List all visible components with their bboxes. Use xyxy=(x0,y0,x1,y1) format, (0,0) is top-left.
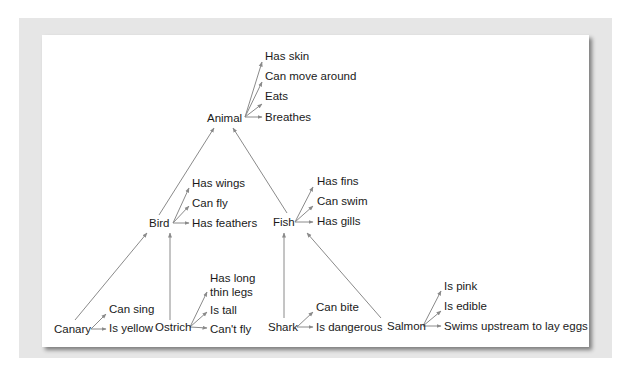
property-label: Can fly xyxy=(192,197,228,210)
property-arrow xyxy=(295,206,313,222)
property-label: Can bite xyxy=(316,301,359,314)
property-label: Has long xyxy=(210,272,255,285)
property-arrow xyxy=(190,327,207,328)
property-label: Has feathers xyxy=(192,217,257,230)
semantic-network xyxy=(0,0,627,372)
node-ostrich: Ostrich xyxy=(155,321,191,334)
isa-arrow xyxy=(233,128,287,213)
node-fish: Fish xyxy=(273,216,295,229)
property-label: Has skin xyxy=(265,50,309,63)
property-arrow xyxy=(245,62,262,117)
property-arrow xyxy=(91,314,106,329)
property-label: Swims upstream to lay eggs xyxy=(444,320,588,333)
property-arrow xyxy=(295,187,313,222)
property-label: Breathes xyxy=(265,111,311,124)
property-label: Is dangerous xyxy=(316,321,383,334)
property-arrow xyxy=(297,312,313,327)
property-label: Has wings xyxy=(192,177,245,190)
property-label: thin legs xyxy=(210,286,253,299)
property-label: Can move around xyxy=(265,70,356,83)
property-arrow xyxy=(173,206,189,223)
property-label: Is yellow xyxy=(109,322,153,335)
property-arrow xyxy=(245,104,262,117)
property-label: Is edible xyxy=(444,300,487,313)
node-bird: Bird xyxy=(149,217,169,230)
property-label: Can't fly xyxy=(210,323,251,336)
property-label: Is pink xyxy=(444,280,477,293)
property-label: Has fins xyxy=(317,175,359,188)
property-arrow xyxy=(190,292,207,327)
property-arrow xyxy=(173,188,189,223)
property-label: Eats xyxy=(265,90,288,103)
property-label: Can swim xyxy=(317,195,367,208)
node-animal: Animal xyxy=(207,112,242,125)
property-arrow xyxy=(190,312,207,327)
node-shark: Shark xyxy=(268,321,298,334)
property-label: Can sing xyxy=(109,303,154,316)
property-label: Is tall xyxy=(210,304,237,317)
node-salmon: Salmon xyxy=(387,320,426,333)
node-canary: Canary xyxy=(54,323,91,336)
property-label: Has gills xyxy=(317,215,360,228)
property-arrow xyxy=(245,82,262,117)
